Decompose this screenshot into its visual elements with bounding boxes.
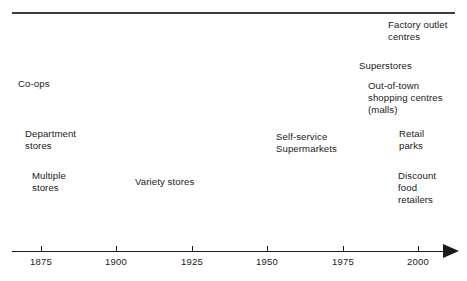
axis-tick-1950 (267, 246, 268, 252)
axis-line (12, 251, 446, 252)
event-label-line: shopping centres (368, 92, 443, 104)
axis-tick-1925 (192, 246, 193, 252)
event-label-line: Out-of-town (368, 80, 443, 92)
axis-tick-label-1950: 1950 (256, 256, 278, 268)
event-label-multiple-stores: Multiplestores (32, 170, 66, 194)
event-label-line: Factory outlet (388, 19, 448, 31)
event-label-line: retailers (398, 194, 436, 206)
event-label-line: stores (25, 140, 76, 152)
event-label-line: food (398, 182, 436, 194)
event-label-line: Self-service (276, 131, 337, 143)
event-label-co-ops: Co-ops (18, 78, 50, 90)
event-label-line: Multiple (32, 170, 66, 182)
event-label-factory-outlet-centres: Factory outletcentres (388, 19, 448, 43)
event-label-discount-food-retailers: Discountfoodretailers (398, 170, 436, 207)
event-label-line: stores (32, 182, 66, 194)
event-label-line: Retail (399, 128, 424, 140)
event-label-line: centres (388, 31, 448, 43)
event-label-line: Variety stores (135, 176, 194, 188)
event-label-self-service-supermarkets: Self-serviceSupermarkets (276, 131, 337, 155)
event-label-line: (malls) (368, 104, 443, 116)
axis-tick-1975 (343, 246, 344, 252)
event-label-out-of-town-centres: Out-of-townshopping centres(malls) (368, 80, 443, 117)
event-label-line: parks (399, 140, 424, 152)
event-label-retail-parks: Retailparks (399, 128, 424, 152)
top-divider-rule (12, 12, 455, 14)
event-label-superstores: Superstores (359, 60, 412, 72)
axis-tick-label-1875: 1875 (30, 256, 52, 268)
event-label-department-stores: Departmentstores (25, 128, 76, 152)
axis-tick-label-2000: 2000 (407, 256, 429, 268)
axis-tick-1900 (116, 246, 117, 252)
event-label-line: Discount (398, 170, 436, 182)
axis-arrow-icon (443, 244, 459, 258)
event-label-line: Superstores (359, 60, 412, 72)
axis-tick-label-1900: 1900 (105, 256, 127, 268)
axis-tick-1875 (41, 246, 42, 252)
axis-tick-label-1975: 1975 (332, 256, 354, 268)
event-label-line: Supermarkets (276, 143, 337, 155)
timeline-figure: Factory outletcentresSuperstoresOut-of-t… (0, 0, 467, 281)
axis-tick-2000 (418, 246, 419, 252)
event-label-line: Co-ops (18, 78, 50, 90)
axis-tick-label-1925: 1925 (181, 256, 203, 268)
event-label-variety-stores: Variety stores (135, 176, 194, 188)
event-label-line: Department (25, 128, 76, 140)
